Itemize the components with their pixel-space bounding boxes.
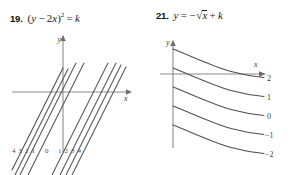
curve-label-2: 2 bbox=[267, 74, 271, 83]
level-line-4 bbox=[28, 63, 84, 175]
problem-21: 21.y = −√x + k y x 2 1 bbox=[146, 0, 293, 175]
level-curve-lines-19 bbox=[12, 63, 126, 175]
problem-21-graph: y x 2 1 0 −1 −2 bbox=[146, 0, 293, 175]
curve-label-1: 1 bbox=[267, 93, 271, 102]
y-axis-arrowhead bbox=[170, 40, 176, 46]
textbook-exercise-page: 19.(y − 2x)2 = k y bbox=[0, 0, 293, 175]
curve-label-neg1: −1 bbox=[265, 131, 274, 140]
y-axis-label: y bbox=[57, 35, 62, 44]
curve-label-neg2: −2 bbox=[265, 150, 274, 159]
axes-group-21 bbox=[160, 40, 266, 148]
x-tick-label-pos2: 2 bbox=[65, 147, 69, 155]
x-tick-label-neg2: 2 bbox=[25, 147, 29, 155]
x-tick-label-pos3: 3 bbox=[71, 147, 75, 155]
level-curve-kneg2 bbox=[173, 125, 264, 154]
x-axis-label: x bbox=[253, 60, 258, 69]
level-line-3 bbox=[20, 63, 76, 175]
curve-label-0: 0 bbox=[267, 112, 271, 121]
x-tick-label-neg3: 3 bbox=[19, 147, 23, 155]
level-line-8 bbox=[72, 67, 126, 175]
x-tick-label-pos1: 1 bbox=[58, 147, 62, 155]
x-tick-label-neg4: 4 bbox=[12, 147, 16, 155]
x-axis-label: x bbox=[123, 94, 128, 103]
y-axis-label: y bbox=[165, 38, 170, 47]
x-tick-label-pos4: 4 bbox=[78, 147, 82, 155]
problem-19: 19.(y − 2x)2 = k y bbox=[0, 0, 146, 175]
problem-19-graph: y x 4 3 2 1 0 1 2 3 4 bbox=[0, 0, 146, 175]
x-tick-label-neg1: 1 bbox=[32, 147, 36, 155]
level-curves-21 bbox=[173, 49, 264, 154]
level-line-6 bbox=[60, 63, 116, 175]
x-axis-arrowhead bbox=[259, 71, 266, 77]
x-tick-label-zero: 0 bbox=[45, 147, 49, 155]
